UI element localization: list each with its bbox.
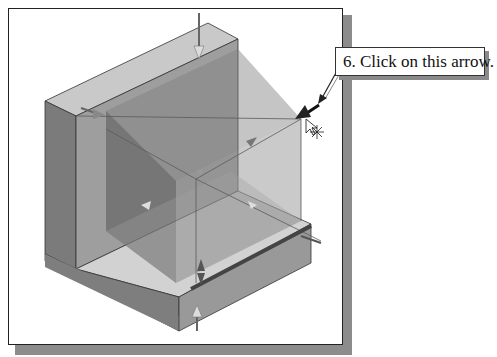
callout-text: 6. Click on this arrow.	[343, 52, 494, 71]
model-canvas[interactable]	[8, 8, 343, 345]
arrow-cursor-with-star-icon	[306, 119, 324, 139]
graphics-viewport[interactable]	[8, 8, 343, 345]
target-arrow-highlighted[interactable]	[295, 105, 319, 119]
instruction-callout: 6. Click on this arrow.	[335, 47, 485, 76]
page-top-strip	[0, 0, 497, 6]
slab-left-face	[45, 101, 76, 269]
anchor-point	[198, 170, 203, 175]
